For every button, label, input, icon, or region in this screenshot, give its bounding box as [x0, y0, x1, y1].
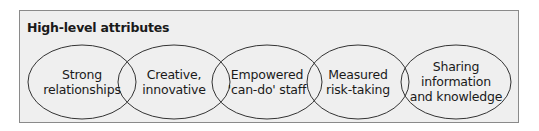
attribute-label-2: Creative, innovative: [142, 67, 206, 97]
attribute-line: and knowledge: [410, 89, 503, 104]
attribute-line: Empowered: [228, 67, 306, 82]
attribute-label-1: Strong relationships: [43, 67, 120, 97]
attribute-line: innovative: [142, 82, 206, 97]
attribute-line: Strong: [43, 67, 120, 82]
attribute-line: risk-taking: [326, 82, 390, 97]
attribute-label-3: Empowered 'can-do' staff: [228, 67, 306, 97]
attribute-line: Sharing: [410, 59, 503, 74]
attribute-label-5: Sharing information and knowledge: [410, 59, 503, 104]
attribute-line: Measured: [326, 67, 390, 82]
attribute-line: relationships: [43, 82, 120, 97]
attribute-label-4: Measured risk-taking: [326, 67, 390, 97]
attribute-line: 'can-do' staff: [228, 82, 306, 97]
attribute-line: Creative,: [142, 67, 206, 82]
attribute-line: information: [410, 74, 503, 89]
